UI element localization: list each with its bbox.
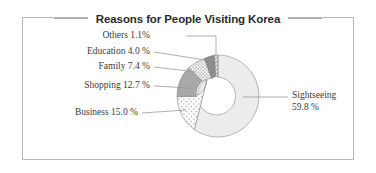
title-text-container: Reasons for People Visiting Korea (88, 9, 288, 28)
slice-label-family: Family 7.4 % (99, 61, 150, 72)
page-title: Reasons for People Visiting Korea (96, 13, 280, 25)
title-rule-left (54, 18, 88, 19)
chart-figure: Reasons for People Visiting Korea (0, 0, 376, 173)
slice-label-business: Business 15.0 % (75, 107, 138, 118)
slice-value-sightseeing: 59.8 % (292, 102, 319, 113)
slice-label-shopping: Shopping 12.7 % (84, 80, 150, 91)
leader-line-business (142, 110, 186, 113)
slice-label-others: Others 1.1% (103, 30, 151, 41)
title-rule-right (288, 18, 322, 19)
pie-slices (177, 55, 259, 137)
slice-label-education: Education 4.0 % (87, 46, 150, 57)
leader-line-others (186, 36, 216, 56)
leader-line-education (154, 52, 205, 60)
slice-label-sightseeing: Sightseeing (292, 90, 336, 101)
